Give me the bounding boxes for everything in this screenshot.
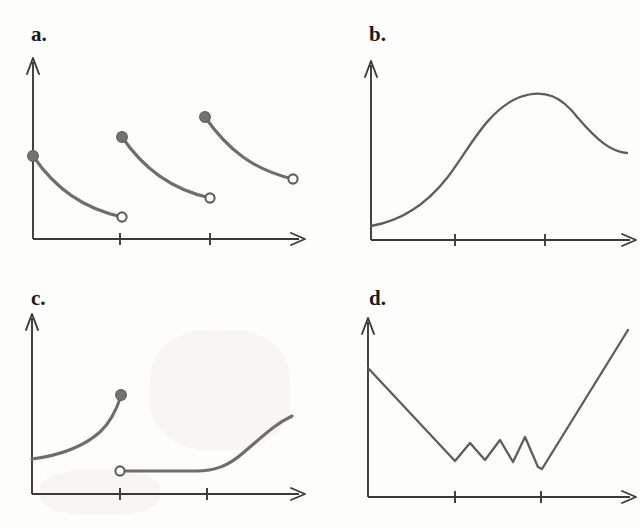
panel-c-curves <box>32 396 292 471</box>
panel-d: d. <box>320 264 640 527</box>
figure-root: a. <box>0 0 640 527</box>
closed-endpoint-dot <box>116 390 127 401</box>
closed-endpoint-dot <box>117 132 128 143</box>
panel-d-axes <box>362 318 636 503</box>
curve-decline-zigzag-rise <box>368 330 628 469</box>
curve-branch-1 <box>33 156 122 217</box>
panel-a: a. <box>0 0 320 264</box>
curve-branch-2 <box>122 137 210 198</box>
curve-flat-then-rising-branch <box>121 416 292 471</box>
panel-c-plot <box>0 264 320 527</box>
open-endpoint-circle <box>205 193 214 202</box>
panel-a-axes <box>27 58 305 245</box>
closed-endpoint-dot <box>200 112 211 123</box>
panel-b-plot <box>320 0 640 264</box>
closed-endpoint-dot <box>28 151 39 162</box>
open-endpoint-circle <box>288 174 297 183</box>
open-endpoint-circle <box>117 212 126 221</box>
panel-b: b. <box>320 0 640 264</box>
panel-b-curves <box>371 94 627 226</box>
curve-unimodal <box>371 94 627 226</box>
curve-branch-3 <box>205 117 293 179</box>
panel-d-plot <box>320 264 640 527</box>
panel-b-axes <box>365 61 636 246</box>
curve-rising-branch <box>32 396 121 459</box>
panel-c: c. <box>0 264 320 527</box>
panel-d-curves <box>368 330 628 469</box>
open-endpoint-circle <box>115 466 124 475</box>
panel-a-plot <box>0 0 320 264</box>
panel-a-curves <box>33 117 293 217</box>
